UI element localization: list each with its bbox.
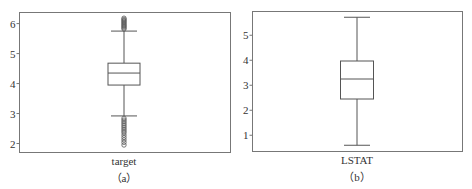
y-tick-label: 4: [243, 54, 249, 66]
y-tick-label: 1: [243, 129, 249, 141]
y-tick-label: 4: [10, 78, 16, 90]
y-tick-label: 2: [243, 104, 249, 116]
box-lstat: [341, 17, 374, 145]
x-label-target: target: [112, 155, 137, 167]
iqr-box: [108, 63, 140, 85]
caption-a: （a）: [111, 172, 138, 184]
y-tick-label: 3: [243, 79, 249, 91]
box-target: [108, 16, 140, 147]
y-tick-label: 2: [10, 138, 16, 150]
figure: 23456 target （a） 12345 LSTAT （b）: [0, 0, 472, 189]
boxplot-panel-b: 12345 LSTAT （b）: [243, 12, 463, 184]
y-tick-label: 5: [10, 48, 16, 60]
y-tick-label: 6: [10, 18, 16, 30]
outlier-marker: [122, 143, 126, 147]
caption-b: （b）: [343, 171, 371, 183]
x-label-lstat: LSTAT: [341, 154, 373, 166]
iqr-box: [341, 61, 374, 99]
y-tick-label: 3: [10, 108, 16, 120]
y-axis-b: 12345: [243, 29, 253, 141]
y-tick-label: 5: [243, 29, 249, 41]
boxplot-panel-a: 23456 target （a）: [10, 13, 231, 185]
y-axis-a: 23456: [10, 18, 20, 150]
